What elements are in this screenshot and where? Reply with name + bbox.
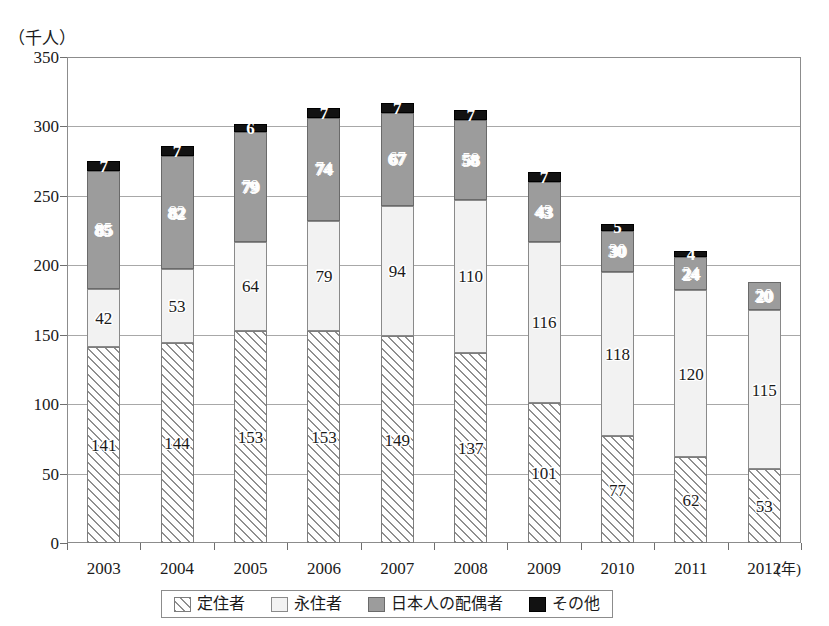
y-axis-tick-label: 200 [11,257,59,274]
bar-segment-value-label: 58 [462,151,479,168]
bar-segment[interactable]: 7 [87,161,120,171]
bar-segment[interactable]: 120 [674,290,707,457]
bar-segment[interactable]: 4 [674,251,707,257]
y-axis-tick-mark [60,126,67,127]
x-axis-tick-mark [67,543,68,550]
bar-segment[interactable]: 53 [748,469,781,543]
bar-segment[interactable]: 79 [307,221,340,331]
bar-column[interactable]: 77118305 [601,57,634,543]
legend-item-label: 日本人の配偶者 [391,596,503,612]
y-axis-tick-label: 350 [11,49,59,66]
x-axis-tick-label: 2008 [454,560,488,577]
y-axis-tick-mark [60,474,67,475]
bar-segment[interactable]: 7 [161,146,194,156]
bar-segment-value-label: 101 [531,464,557,481]
bar-segment[interactable]: 74 [307,118,340,221]
bar-column[interactable]: 15364796 [234,57,267,543]
y-axis-tick-mark [60,196,67,197]
bar-segment[interactable]: 153 [307,331,340,543]
bar-column[interactable]: 137110587 [454,57,487,543]
legend-item-label: 永住者 [294,596,342,612]
y-axis-tick-label: 150 [11,326,59,343]
stacked-bar-chart: （千人） 050100150200250300350 2003200420052… [0,0,829,626]
bar-segment[interactable]: 82 [161,156,194,270]
bar-segment-value-label: 153 [238,428,264,445]
bar-segment-value-label: 42 [95,310,112,327]
bar-segment-value-label: 6 [246,119,255,136]
x-axis-tick-label: 2006 [307,560,341,577]
bar-segment[interactable]: 79 [234,132,267,242]
bar-segment-value-label: 79 [315,267,332,284]
bar-segment[interactable]: 30 [601,231,634,273]
legend-item[interactable]: その他 [529,596,600,612]
bar-segment[interactable]: 67 [381,113,414,206]
y-axis-tick-label: 50 [11,465,59,482]
y-axis-unit-label: （千人） [8,24,76,49]
bar-segment[interactable]: 42 [87,289,120,347]
x-axis-tick-label: 2009 [527,560,561,577]
bar-segment-value-label: 7 [393,99,402,116]
x-axis-tick-label: 2007 [380,560,414,577]
x-axis-tick-mark [654,543,655,550]
bar-segment[interactable]: 149 [381,336,414,543]
bar-segment[interactable]: 7 [528,172,561,182]
bar-segment[interactable]: 64 [234,242,267,331]
gray-swatch [368,597,385,612]
bar-column[interactable]: 101116437 [528,57,561,543]
bar-column[interactable]: 62120244 [674,57,707,543]
y-axis-tick-label: 0 [11,535,59,552]
bar-segment[interactable]: 58 [454,120,487,201]
bar-segment[interactable]: 94 [381,206,414,337]
bar-segment-value-label: 5 [613,219,622,236]
bar-segment[interactable]: 62 [674,457,707,543]
y-axis-tick-mark [60,404,67,405]
bar-segment[interactable]: 144 [161,343,194,543]
y-axis-tick-label: 100 [11,396,59,413]
x-axis-tick-mark [728,543,729,550]
legend-item[interactable]: 定住者 [174,596,245,612]
bar-segment-value-label: 7 [320,105,329,122]
bar-segment-value-label: 82 [169,204,186,221]
bar-segment[interactable]: 43 [528,182,561,242]
bar-segment[interactable]: 53 [161,269,194,343]
bar-segment-value-label: 7 [99,158,108,175]
bar-segment[interactable]: 6 [234,124,267,132]
bar-segment[interactable]: 115 [748,310,781,470]
bar-segment[interactable]: 101 [528,403,561,543]
bar-segment-value-label: 85 [95,221,112,238]
x-axis-unit-label: (年) [776,562,801,577]
bar-segment[interactable]: 85 [87,171,120,289]
bar-segment[interactable]: 7 [381,103,414,113]
bar-column[interactable]: 14142857 [87,57,120,543]
bar-segment[interactable]: 116 [528,242,561,403]
x-axis-tick-mark [434,543,435,550]
x-axis-tick-mark [801,543,802,550]
bar-column[interactable]: 14994677 [381,57,414,543]
x-axis-tick-label: 2004 [160,560,194,577]
bar-segment-value-label: 7 [540,169,549,186]
bar-segment-value-label: 7 [173,142,182,159]
y-axis-tick-label: 250 [11,187,59,204]
bar-segment-value-label: 120 [678,365,704,382]
bar-segment[interactable]: 118 [601,272,634,436]
bar-segment[interactable]: 5 [601,224,634,231]
bar-segment[interactable]: 137 [454,353,487,543]
bar-column[interactable]: 14453827 [161,57,194,543]
legend-item[interactable]: 永住者 [271,596,342,612]
bar-column[interactable]: 5311520 [748,57,781,543]
bar-segment-value-label: 4 [687,246,696,263]
x-axis-tick-label: 2010 [601,560,635,577]
bar-segment[interactable]: 141 [87,347,120,543]
bar-segment[interactable]: 77 [601,436,634,543]
bar-segment[interactable]: 7 [307,108,340,118]
bar-segment[interactable]: 110 [454,200,487,353]
x-axis-tick-mark [581,543,582,550]
x-axis-tick-mark [287,543,288,550]
bar-column[interactable]: 15379747 [307,57,340,543]
legend-item[interactable]: 日本人の配偶者 [368,596,503,612]
bar-segment[interactable]: 153 [234,331,267,543]
bar-segment-value-label: 141 [91,437,117,454]
bar-segment[interactable]: 20 [748,282,781,310]
bar-segment[interactable]: 7 [454,110,487,120]
bar-segment-value-label: 94 [389,262,406,279]
